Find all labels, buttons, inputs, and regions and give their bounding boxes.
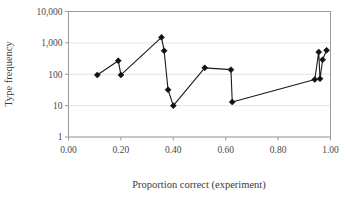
y-axis-tick-label: 1 bbox=[58, 132, 63, 142]
chart-figure: 1101001,00010,000 0.000.200.400.600.801.… bbox=[0, 0, 345, 199]
data-point-marker bbox=[316, 49, 322, 55]
y-axis-tick-label: 1,000 bbox=[41, 38, 63, 48]
x-axis-title: Proportion correct (experiment) bbox=[132, 179, 266, 191]
data-point-marker bbox=[312, 77, 318, 83]
y-axis-title: Type frequency bbox=[3, 41, 14, 107]
x-axis-tick-label: 0.40 bbox=[165, 145, 182, 155]
x-axis-tick-label: 0.00 bbox=[60, 145, 77, 155]
y-axis-tick-label: 100 bbox=[48, 70, 63, 80]
data-point-marker bbox=[94, 72, 100, 78]
data-point-marker bbox=[317, 76, 323, 82]
x-axis-tick-label: 0.80 bbox=[270, 145, 287, 155]
x-axis-tick-label: 0.60 bbox=[217, 145, 234, 155]
x-axis-tick-label: 1.00 bbox=[322, 145, 339, 155]
x-axis-tick-label: 0.20 bbox=[113, 145, 130, 155]
y-axis-tick-label: 10,000 bbox=[36, 7, 62, 17]
x-axis-tick-labels: 0.000.200.400.600.801.00 bbox=[60, 145, 339, 155]
type-frequency-line-chart: 1101001,00010,000 0.000.200.400.600.801.… bbox=[0, 0, 345, 199]
data-point-marker bbox=[161, 48, 167, 54]
series-line-type-frequency bbox=[97, 37, 326, 105]
data-point-marker bbox=[229, 99, 235, 105]
y-axis-tick-labels: 1101001,00010,000 bbox=[36, 7, 62, 143]
data-point-marker bbox=[165, 87, 171, 93]
data-point-marker bbox=[320, 57, 326, 63]
data-point-marker bbox=[324, 47, 330, 53]
series-marker-group bbox=[94, 34, 329, 108]
data-point-marker bbox=[228, 67, 234, 73]
y-axis-tick-label: 10 bbox=[53, 101, 63, 111]
data-point-marker bbox=[115, 58, 121, 64]
